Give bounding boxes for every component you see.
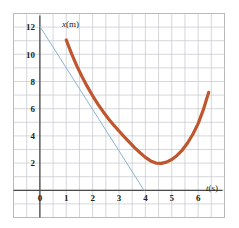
y-tick-label: 12 xyxy=(26,22,36,32)
position-time-graph-figure: 0123456 24681012 x(m) t(s) xyxy=(0,0,239,228)
x-axis-title: t(s) xyxy=(206,183,218,193)
x-tick-label: 4 xyxy=(143,193,148,203)
x-tick-label: 1 xyxy=(64,193,69,203)
y-tick-label: 10 xyxy=(26,50,36,60)
y-tick-label: 4 xyxy=(30,131,35,141)
y-axis-title: x(m) xyxy=(61,19,79,29)
plot-svg: 0123456 24681012 x(m) t(s) xyxy=(0,0,239,228)
x-tick-label: 6 xyxy=(196,193,201,203)
x-tick-label: 3 xyxy=(117,193,122,203)
x-tick-label: 2 xyxy=(90,193,95,203)
y-tick-label: 2 xyxy=(30,158,35,168)
y-tick-label: 6 xyxy=(30,104,35,114)
y-tick-label: 8 xyxy=(30,77,35,87)
x-tick-label: 5 xyxy=(170,193,175,203)
x-tick-label: 0 xyxy=(38,193,43,203)
